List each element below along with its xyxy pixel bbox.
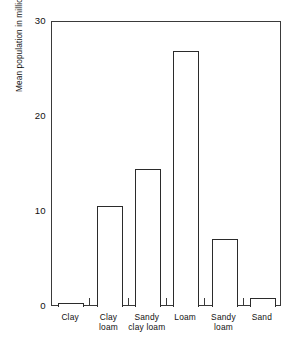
bar (250, 298, 276, 308)
x-axis-category-label: Sand (237, 312, 287, 322)
x-axis-tick-mark (204, 298, 205, 306)
bar (135, 169, 161, 307)
bar-chart-figure: Mean population in millions/acre 0102030… (0, 0, 301, 348)
y-axis-tick-label: 10 (6, 205, 46, 216)
bar (58, 303, 84, 307)
x-axis-category-label-line: Sand (237, 312, 287, 322)
x-axis-category-label-line: loam (198, 322, 248, 332)
bar (212, 239, 238, 307)
x-axis-tick-mark (89, 298, 90, 306)
x-axis-category-label-line: clay loam (122, 322, 172, 332)
x-axis-tick-mark (166, 298, 167, 306)
x-axis-tick-mark (243, 298, 244, 306)
x-axis-tick-mark (128, 298, 129, 306)
y-axis-tick-label: 0 (6, 300, 46, 311)
plot-area (51, 21, 281, 306)
y-axis-tick-label: 20 (6, 110, 46, 121)
y-axis-title: Mean population in millions/acre (15, 0, 24, 92)
y-axis-tick-label: 30 (6, 15, 46, 26)
bar (97, 206, 123, 307)
bar (173, 51, 199, 308)
